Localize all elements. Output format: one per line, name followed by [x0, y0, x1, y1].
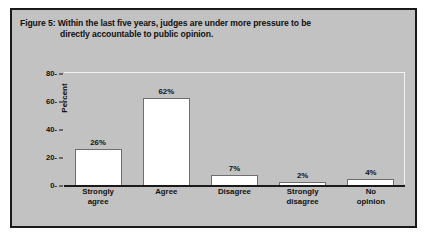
x-axis-label-strongly-agree: Strongly agree	[64, 187, 132, 206]
x-axis-label-line-1: Strongly	[82, 187, 114, 196]
x-axis-label-line-1: Strongly	[287, 187, 319, 196]
x-axis-label-agree: Agree	[132, 187, 200, 206]
x-axis-label-line-2: agree	[64, 197, 132, 207]
x-axis-label-strongly-disagree: Strongly disagree	[269, 187, 337, 206]
bar-group-strongly-agree[interactable]: 26%	[64, 73, 132, 185]
x-axis-label-line-1: No	[366, 187, 376, 196]
bar-group-disagree[interactable]: 7%	[200, 73, 268, 185]
x-axis-label-no-opinion: No opinion	[337, 187, 405, 206]
bar-series: 26% 62% 7% 2% 4%	[64, 73, 405, 185]
bar-value-label: 2%	[297, 171, 308, 180]
x-axis-label-line-1: Disagree	[218, 187, 251, 196]
x-axis-label-line-2: opinion	[337, 197, 405, 207]
bar-rect[interactable]	[143, 98, 190, 185]
x-axis-label-disagree: Disagree	[200, 187, 268, 206]
bar-rect[interactable]	[211, 175, 258, 185]
bar-group-no-opinion[interactable]: 4%	[337, 73, 405, 185]
y-axis-tick-40: 40-	[18, 125, 64, 134]
bar-value-label: 7%	[229, 164, 240, 173]
y-axis-tick-20: 20-	[18, 153, 64, 162]
bar-rect[interactable]	[75, 149, 122, 185]
figure-title-line-2: directly accountable to public opinion.	[20, 29, 410, 40]
figure-title-line-1: Figure 5: Within the last five years, ju…	[20, 18, 311, 28]
bar-group-strongly-disagree[interactable]: 2%	[269, 73, 337, 185]
chart-plot-area: Percent 0- 20- 40- 60- 80- 26% 62% 7% 2%	[64, 72, 405, 184]
x-axis-labels: Strongly agree Agree Disagree Strongly d…	[64, 187, 405, 206]
x-axis-label-line-1: Agree	[155, 187, 177, 196]
x-axis-label-line-2: disagree	[269, 197, 337, 207]
bar-value-label: 4%	[365, 168, 376, 177]
bar-group-agree[interactable]: 62%	[132, 73, 200, 185]
figure-title: Figure 5: Within the last five years, ju…	[20, 18, 410, 40]
y-axis-tick-60: 60-	[18, 97, 64, 106]
figure-panel: Figure 5: Within the last five years, ju…	[10, 8, 417, 228]
y-axis-tick-0: 0-	[18, 181, 64, 190]
bar-value-label: 26%	[90, 138, 106, 147]
y-axis-tick-80: 80-	[18, 69, 64, 78]
bar-value-label: 62%	[158, 87, 174, 96]
